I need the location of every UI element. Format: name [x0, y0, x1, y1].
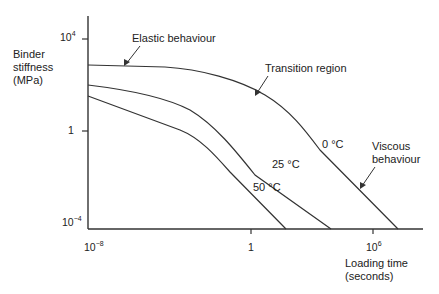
- transition-arrow: [257, 76, 268, 93]
- curve-0c: [88, 65, 398, 229]
- viscous-line1: Viscous: [372, 140, 420, 153]
- y-tick-label-1: 1: [68, 124, 74, 136]
- curve-25c: [88, 85, 331, 229]
- y-tick-label-10e-4: 10−4: [62, 216, 82, 228]
- transition-annotation: Transition region: [265, 62, 347, 75]
- y-axis-label-line3: (MPa): [13, 74, 53, 87]
- viscous-line2: behaviour: [372, 153, 420, 166]
- transition-arrowhead-icon: [255, 89, 261, 96]
- y-axis-label-line2: stiffness: [13, 61, 53, 74]
- curve-label-25c: 25 °C: [272, 158, 300, 171]
- x-tick-label-10e-8: 10−8: [84, 241, 104, 253]
- viscous-arrow: [362, 167, 375, 186]
- x-tick-label-10e6: 106: [366, 241, 382, 253]
- curve-50c: [88, 96, 286, 229]
- viscous-arrowhead-icon: [360, 182, 366, 189]
- x-tick-label-1: 1: [248, 241, 254, 253]
- y-axis-label: Binder stiffness (MPa): [13, 48, 53, 87]
- x-axis-label: Loading time (seconds): [345, 257, 408, 283]
- x-axis-label-line2: (seconds): [345, 270, 408, 283]
- viscous-annotation: Viscous behaviour: [372, 140, 420, 166]
- curve-label-0c: 0 °C: [322, 138, 344, 151]
- y-tick-label-10e4: 104: [60, 31, 76, 43]
- curve-label-50c: 50 °C: [253, 181, 281, 194]
- elastic-annotation: Elastic behaviour: [132, 32, 216, 45]
- x-axis-label-line1: Loading time: [345, 257, 408, 270]
- y-axis-label-line1: Binder: [13, 48, 53, 61]
